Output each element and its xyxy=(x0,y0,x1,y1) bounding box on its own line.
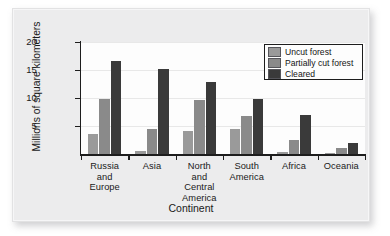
chart-legend: Uncut forest Partially cut forest Cleare… xyxy=(264,44,363,80)
bar xyxy=(88,134,99,154)
x-axis-group-separator xyxy=(128,154,129,160)
bar xyxy=(158,69,169,154)
legend-item-uncut-forest: Uncut forest xyxy=(268,47,359,57)
x-axis-label-north-and-central-america: NorthandCentralAmerica xyxy=(176,161,223,203)
x-axis-label-russia-and-europe: Russiaand Europe xyxy=(81,161,128,193)
y-axis-tick-label: 5 xyxy=(32,121,37,131)
x-axis-title: Continent xyxy=(13,202,369,214)
legend-label: Cleared xyxy=(285,70,315,79)
x-axis-group-separator xyxy=(318,154,319,160)
chart-panel: Millions of square kilometers 5101520 Ru… xyxy=(12,8,370,222)
legend-swatch-icon xyxy=(268,47,281,57)
x-axis-end-tick xyxy=(81,154,82,160)
y-axis-tick-label: 20 xyxy=(26,37,37,47)
legend-swatch-icon xyxy=(268,69,281,79)
x-axis-label-africa: Africa xyxy=(270,161,317,172)
gridline xyxy=(81,42,365,43)
bar xyxy=(348,143,359,154)
x-axis-end-tick xyxy=(365,154,366,160)
bar xyxy=(241,116,252,154)
x-axis-group-separator xyxy=(223,154,224,160)
legend-label: Uncut forest xyxy=(285,48,331,57)
gridline xyxy=(81,98,365,99)
x-axis-label-oceania: Oceania xyxy=(318,161,365,172)
legend-item-cleared: Cleared xyxy=(268,69,359,79)
x-axis-group-separator xyxy=(176,154,177,160)
x-axis-label-south-america: SouthAmerica xyxy=(223,161,270,182)
bar xyxy=(230,129,241,154)
legend-label: Partially cut forest xyxy=(285,59,353,68)
y-axis-tick xyxy=(75,98,81,99)
y-axis-tick-label: 15 xyxy=(26,65,37,75)
bar xyxy=(194,100,205,154)
bar xyxy=(99,99,110,154)
legend-swatch-icon xyxy=(268,58,281,68)
x-axis-label-asia: Asia xyxy=(128,161,175,172)
y-axis-tick-label: 10 xyxy=(26,93,37,103)
bar xyxy=(206,82,217,154)
bar xyxy=(253,99,264,154)
legend-item-partially-cut-forest: Partially cut forest xyxy=(268,58,359,68)
gridline xyxy=(81,126,365,127)
bar xyxy=(111,61,122,154)
y-axis-tick xyxy=(75,42,81,43)
bar xyxy=(300,115,311,154)
bar xyxy=(147,129,158,154)
bar xyxy=(183,131,194,154)
chart-screenshot: Millions of square kilometers 5101520 Ru… xyxy=(0,0,390,236)
x-axis-group-separator xyxy=(270,154,271,160)
y-axis-tick xyxy=(75,70,81,71)
bar xyxy=(289,140,300,154)
y-axis-tick xyxy=(75,126,81,127)
